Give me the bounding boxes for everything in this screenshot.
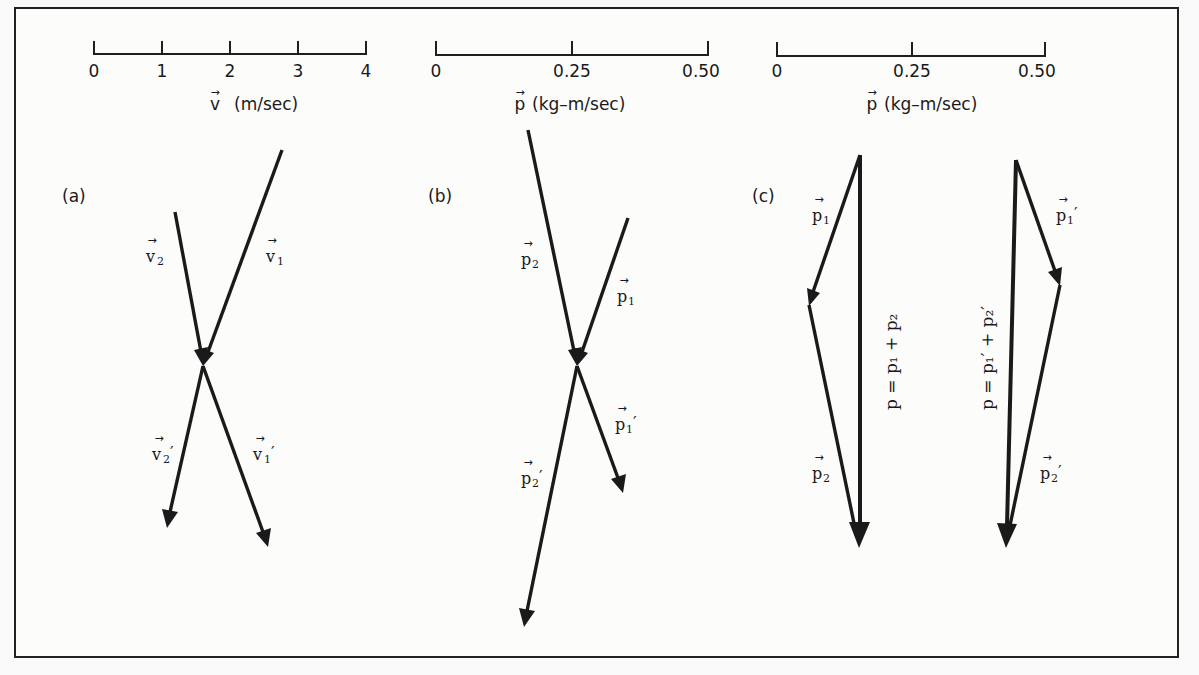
vector-p1-prime	[1016, 160, 1055, 271]
svg-text:′: ′	[633, 413, 637, 432]
label-p2-prime: → p 2 ′	[521, 456, 543, 490]
momentum-scale-b: 0 0.25 0.50 p → (kg–m/sec)	[431, 41, 720, 114]
svg-text:′: ′	[271, 443, 275, 462]
svg-text:′: ′	[170, 443, 174, 462]
arrowhead-icon	[997, 523, 1017, 548]
svg-text:→: →	[619, 274, 628, 287]
svg-text:2: 2	[532, 477, 539, 490]
tick-label: 0.25	[893, 61, 931, 81]
label-p2: → p 2	[812, 451, 830, 485]
tick-label: 0.50	[682, 61, 720, 81]
svg-text:1: 1	[628, 295, 635, 308]
svg-text:p: p	[615, 415, 625, 434]
arrow-over-icon: →	[515, 86, 524, 99]
label-v2: → v 2	[145, 234, 164, 268]
svg-text:2: 2	[163, 453, 170, 466]
svg-text:→: →	[154, 432, 163, 445]
svg-text:2: 2	[157, 255, 164, 268]
svg-text:1: 1	[264, 453, 271, 466]
arrow-over-icon: →	[210, 86, 219, 99]
svg-text:1: 1	[823, 214, 830, 227]
svg-text:p: p	[1056, 206, 1066, 225]
svg-text:1: 1	[626, 423, 633, 436]
svg-text:→: →	[814, 193, 823, 206]
tick-label: 3	[293, 61, 304, 81]
svg-text:→: →	[617, 402, 626, 415]
arrowhead-icon	[575, 348, 588, 366]
svg-text:′: ′	[1058, 462, 1062, 481]
svg-text:→: →	[523, 237, 532, 250]
svg-text:p: p	[1040, 464, 1050, 483]
svg-text:2: 2	[1051, 472, 1058, 485]
svg-text:v: v	[265, 247, 275, 266]
arrowhead-icon	[162, 509, 178, 528]
label-v1: → v 1	[265, 234, 284, 268]
triangle-before: → p 1 → p 2 p = p₁ + p₂	[807, 155, 901, 548]
momentum-scale-c: 0 0.25 0.50 p → (kg–m/sec)	[772, 42, 1056, 114]
svg-text:→: →	[1058, 193, 1067, 206]
svg-text:v: v	[252, 445, 262, 464]
label-p1-prime: → p 1 ′	[615, 402, 637, 436]
tick-label: 0	[431, 61, 442, 81]
tick-label: 0	[772, 61, 783, 81]
svg-text:→: →	[814, 451, 823, 464]
svg-text:′: ′	[539, 467, 543, 486]
equation-total-momentum-before: p = p₁ + p₂	[881, 314, 901, 410]
panel-label-a: (a)	[62, 186, 86, 206]
svg-text:p: p	[521, 469, 531, 488]
svg-text:1: 1	[1067, 214, 1074, 227]
svg-text:p: p	[812, 206, 822, 225]
svg-text:1: 1	[277, 255, 284, 268]
svg-text:p: p	[617, 287, 627, 306]
svg-text:2: 2	[823, 472, 830, 485]
svg-text:′: ′	[1074, 204, 1078, 223]
svg-text:→: →	[147, 234, 156, 247]
triangle-after: → p 1 ′ → p 2 ′ p = p₁′ + p₂′	[977, 160, 1078, 548]
arrowhead-icon	[519, 608, 535, 627]
panel-label-c: (c)	[752, 186, 775, 206]
vector-v2	[175, 212, 201, 352]
svg-text:p: p	[521, 250, 531, 269]
svg-text:→: →	[267, 234, 276, 247]
equation-total-momentum-after: p = p₁′ + p₂′	[977, 306, 997, 410]
label-v1-prime: → v 1 ′	[252, 432, 275, 466]
tick-label: 0	[89, 61, 100, 81]
svg-text:→: →	[1042, 451, 1051, 464]
panel-a-velocities: (a) → v 2 → v 1 → v 2 ′ →	[62, 150, 284, 547]
label-p1-prime: → p 1 ′	[1056, 193, 1078, 227]
svg-text:2: 2	[532, 258, 539, 271]
label-p2: → p 2	[521, 237, 539, 271]
velocity-scale: 0 1 2 3 4 v → (m/sec)	[89, 41, 372, 114]
svg-text:v: v	[145, 247, 155, 266]
tick-label: 1	[157, 61, 168, 81]
collision-vector-diagram: 0 1 2 3 4 v → (m/sec) 0 0.25 0.50 p → (k…	[0, 0, 1199, 675]
arrow-over-icon: →	[867, 86, 876, 99]
vector-p1-prime	[577, 366, 618, 478]
panel-b-momenta: (b) → p 2 → p 1 → p 1 ′ → p	[428, 130, 637, 627]
tick-label: 2	[225, 61, 236, 81]
label-p2-prime: → p 2 ′	[1040, 451, 1062, 485]
arrowhead-icon	[849, 522, 870, 548]
axis-unit: (m/sec)	[234, 94, 298, 114]
vector-p2	[809, 305, 856, 533]
arrowhead-icon	[201, 348, 214, 366]
panel-c-vector-sums: (c) → p 1 → p 2 p = p₁ + p₂	[752, 155, 1078, 548]
vector-v2-prime	[170, 366, 203, 512]
svg-text:p: p	[812, 464, 822, 483]
label-p1: → p 1	[812, 193, 830, 227]
axis-unit: (kg–m/sec)	[532, 94, 625, 114]
svg-text:→: →	[255, 432, 264, 445]
arrowhead-icon	[807, 288, 820, 306]
tick-label: 0.50	[1018, 61, 1056, 81]
arrowhead-icon	[611, 474, 626, 493]
panel-label-b: (b)	[428, 186, 452, 206]
tick-label: 0.25	[553, 61, 591, 81]
axis-unit: (kg–m/sec)	[884, 94, 977, 114]
vector-p2-prime	[1008, 285, 1060, 535]
svg-text:→: →	[523, 456, 532, 469]
arrowhead-icon	[256, 528, 271, 547]
vector-p-total	[1007, 160, 1016, 526]
vector-p2	[528, 130, 574, 351]
label-v2-prime: → v 2 ′	[151, 432, 174, 466]
label-p1: → p 1	[617, 274, 635, 308]
